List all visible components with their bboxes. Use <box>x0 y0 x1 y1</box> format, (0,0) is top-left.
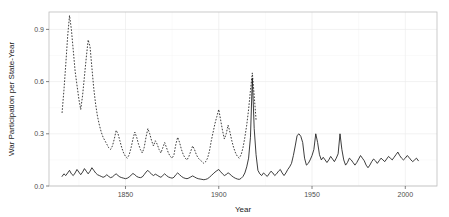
x-axis: 1850190019502000 <box>118 186 413 198</box>
x-tick-label: 1850 <box>118 191 134 198</box>
y-axis-title: War Participation per State-Year <box>7 42 16 156</box>
x-tick-label: 1900 <box>211 191 227 198</box>
x-tick-label: 1950 <box>304 191 320 198</box>
y-axis: 0.00.30.60.9 <box>34 26 49 190</box>
x-tick-label: 2000 <box>397 191 413 198</box>
y-tick-label: 0.6 <box>34 78 44 85</box>
chart-container: 1850190019502000 0.00.30.60.9 Year War P… <box>0 0 449 217</box>
y-tick-label: 0.9 <box>34 26 44 33</box>
y-tick-label: 0.3 <box>34 130 44 137</box>
war-participation-line-chart: 1850190019502000 0.00.30.60.9 Year War P… <box>0 0 449 217</box>
y-tick-label: 0.0 <box>34 183 44 190</box>
x-axis-title: Year <box>235 205 252 214</box>
